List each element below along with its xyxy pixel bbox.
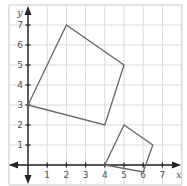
grid-border bbox=[9, 5, 182, 185]
axis-labels: 12345671234567xy bbox=[16, 7, 182, 180]
y-axis-arrow-up-icon bbox=[25, 6, 32, 15]
y-tick-label: 7 bbox=[17, 20, 23, 30]
y-axis-arrow-down-icon bbox=[25, 175, 32, 184]
x-axis-label: x bbox=[176, 169, 182, 180]
coordinate-plane: 12345671234567xy bbox=[0, 0, 187, 186]
x-tick-label: 3 bbox=[83, 170, 89, 180]
x-tick-label: 2 bbox=[64, 170, 70, 180]
y-tick-label: 5 bbox=[17, 60, 23, 70]
large-quadrilateral bbox=[28, 25, 124, 125]
grid-lines bbox=[9, 5, 182, 185]
y-tick-label: 3 bbox=[17, 100, 23, 110]
y-tick-label: 2 bbox=[17, 120, 23, 130]
y-axis-label: y bbox=[16, 7, 23, 18]
x-axis-arrow-left-icon bbox=[9, 162, 18, 169]
axes bbox=[9, 6, 181, 184]
x-axis-arrow-right-icon bbox=[172, 162, 181, 169]
x-tick-label: 7 bbox=[160, 170, 166, 180]
y-tick-label: 6 bbox=[17, 40, 23, 50]
axis-ticks bbox=[26, 25, 163, 168]
y-tick-label: 4 bbox=[17, 80, 23, 90]
x-tick-label: 1 bbox=[44, 170, 50, 180]
x-tick-label: 5 bbox=[121, 170, 127, 180]
y-tick-label: 1 bbox=[17, 140, 23, 150]
x-tick-label: 4 bbox=[102, 170, 108, 180]
